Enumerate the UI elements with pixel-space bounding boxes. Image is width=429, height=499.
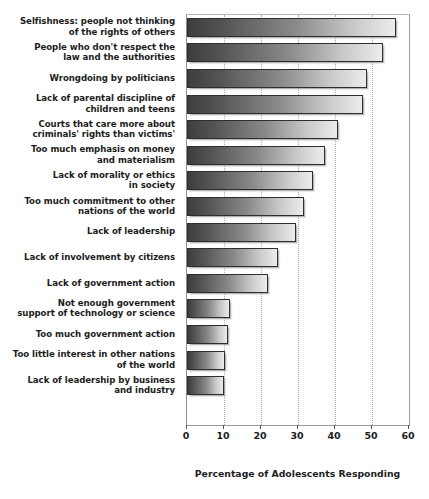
category-label: Too little interest in other nationsof t… <box>0 347 181 373</box>
category-label: Not enough governmentsupport of technolo… <box>0 296 181 322</box>
category-label-text: Lack of morality or ethicsin society <box>53 170 175 191</box>
category-label-text: Wrongdoing by politicians <box>49 73 175 83</box>
bar-row <box>187 143 409 169</box>
category-label-text: Lack of leadership <box>87 226 175 236</box>
bar <box>187 299 230 318</box>
bar <box>187 120 338 139</box>
x-axis-tick <box>371 425 372 429</box>
category-label: Lack of involvement by citizens <box>0 244 181 270</box>
x-axis-tick-label: 60 <box>401 430 414 441</box>
x-axis-tick <box>260 425 261 429</box>
bar-row <box>187 66 409 92</box>
category-label: Lack of leadership <box>0 219 181 245</box>
category-label-text: Too little interest in other nationsof t… <box>13 349 175 370</box>
category-label: Too much commitment to othernations of t… <box>0 193 181 219</box>
category-label-text: People who don't respect thelaw and the … <box>34 42 175 63</box>
x-axis-tick <box>297 425 298 429</box>
x-axis-title: Percentage of Adolescents Responding <box>186 468 409 479</box>
bar-series <box>187 15 409 425</box>
bar-row <box>187 117 409 143</box>
bar-row <box>187 271 409 297</box>
bar <box>187 69 367 88</box>
x-axis-tick <box>186 425 187 429</box>
x-axis-tick-label: 30 <box>290 430 303 441</box>
category-label: Too much emphasis on moneyand materialis… <box>0 142 181 168</box>
x-axis-tick-label: 10 <box>216 430 229 441</box>
category-label: Lack of government action <box>0 270 181 296</box>
bar-row <box>187 348 409 374</box>
category-label: People who don't respect thelaw and the … <box>0 40 181 66</box>
bar <box>187 248 278 267</box>
category-label-text: Not enough governmentsupport of technolo… <box>17 298 175 319</box>
category-label-text: Selfishness: people not thinkingof the r… <box>20 16 175 37</box>
x-axis-tick-label: 40 <box>327 430 340 441</box>
bar <box>187 351 225 370</box>
category-label-text: Too much government action <box>36 329 175 339</box>
bar-row <box>187 322 409 348</box>
x-axis-tick <box>408 425 409 429</box>
x-axis: 0102030405060 <box>186 425 409 447</box>
bar-row <box>187 15 409 41</box>
category-label-text: Too much emphasis on moneyand materialis… <box>31 144 175 165</box>
category-label: Lack of parental discipline ofchildren a… <box>0 91 181 117</box>
bar-row <box>187 220 409 246</box>
bar <box>187 325 228 344</box>
bar <box>187 43 383 62</box>
bar-row <box>187 297 409 323</box>
category-label: Wrongdoing by politicians <box>0 65 181 91</box>
bar <box>187 18 396 37</box>
category-label: Courts that care more aboutcriminals' ri… <box>0 116 181 142</box>
bar-row <box>187 41 409 67</box>
category-label-text: Too much commitment to othernations of t… <box>24 196 175 217</box>
category-label-text: Lack of leadership by businessand indust… <box>27 375 175 396</box>
bar <box>187 197 304 216</box>
bar <box>187 95 363 114</box>
bar-row <box>187 92 409 118</box>
category-label: Lack of leadership by businessand indust… <box>0 372 181 398</box>
category-label: Too much government action <box>0 321 181 347</box>
category-label-text: Lack of parental discipline ofchildren a… <box>36 93 175 114</box>
bar-chart: Selfishness: people not thinkingof the r… <box>0 0 429 499</box>
x-axis-tick <box>334 425 335 429</box>
category-label: Selfishness: people not thinkingof the r… <box>0 14 181 40</box>
x-axis-tick-label: 50 <box>364 430 377 441</box>
category-label-text: Courts that care more aboutcriminals' ri… <box>33 119 175 140</box>
category-label-text: Lack of government action <box>47 278 175 288</box>
bar <box>187 274 268 293</box>
bar <box>187 146 325 165</box>
plot-area <box>186 14 410 426</box>
x-axis-tick <box>223 425 224 429</box>
bar <box>187 171 313 190</box>
bar-row <box>187 245 409 271</box>
bar-row <box>187 373 409 399</box>
bar-row <box>187 194 409 220</box>
x-axis-tick-label: 20 <box>253 430 266 441</box>
category-label-text: Lack of involvement by citizens <box>24 252 175 262</box>
bar <box>187 376 224 395</box>
bar <box>187 223 296 242</box>
bar-row <box>187 169 409 195</box>
x-axis-tick-label: 0 <box>183 430 190 441</box>
category-label-column: Selfishness: people not thinkingof the r… <box>0 14 181 398</box>
category-label: Lack of morality or ethicsin society <box>0 168 181 194</box>
